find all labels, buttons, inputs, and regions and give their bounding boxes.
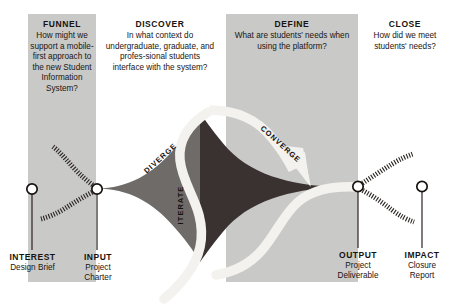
milestone-input-sub: Project Charter [72,263,124,284]
hatched-line-impact-up [358,154,413,186]
phase-close-question: How did we meet students' needs? [362,31,448,52]
milestone-output-name: OUTPUT [326,250,390,261]
milestone-input-name: INPUT [72,252,124,263]
flow-label-iterate: ITERATE [176,186,185,225]
milestone-impact: IMPACT Closure Report [396,250,448,282]
node-output[interactable] [353,181,363,191]
milestone-output-sub: Project Deliverable [326,261,390,282]
node-interest[interactable] [27,184,37,194]
phase-define: DEFINE What are students' needs when usi… [228,19,356,52]
milestone-impact-name: IMPACT [396,250,448,261]
milestone-impact-sub: Closure Report [396,261,448,282]
diagram-canvas: DIVERGE ITERATE CONVERGE FUNNEL How migh… [0,0,451,306]
phase-define-title: DEFINE [228,19,356,30]
phase-close: CLOSE How did we meet students' needs? [362,19,448,52]
milestone-output: OUTPUT Project Deliverable [326,250,390,282]
phase-close-title: CLOSE [362,19,448,30]
phase-define-question: What are students' needs when using the … [228,31,356,52]
hatched-line-impact-down [358,188,414,222]
phase-funnel: FUNNEL How might we support a mobile-fir… [28,19,96,95]
milestone-input: INPUT Project Charter [72,252,124,284]
phase-discover-title: DISCOVER [104,19,216,30]
milestone-interest-name: INTEREST [4,252,61,263]
phase-funnel-question: How might we support a mobile-first appr… [28,31,96,95]
phase-discover: DISCOVER In what context do undergraduat… [104,19,216,73]
milestone-interest: INTEREST Design Brief [4,252,61,273]
phase-discover-question: In what context do undergraduate, gradua… [104,31,216,73]
node-impact[interactable] [417,181,427,191]
node-input[interactable] [92,184,102,194]
milestone-interest-sub: Design Brief [4,263,61,273]
phase-funnel-title: FUNNEL [28,19,96,30]
